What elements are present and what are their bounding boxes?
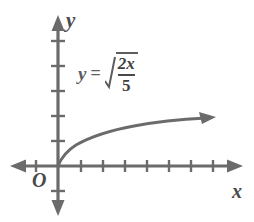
- x-axis-arrow-left: [10, 160, 26, 173]
- graph-figure: y = 2x 5 y x O: [0, 0, 254, 222]
- equals-sign: =: [90, 64, 100, 82]
- fraction-numerator: 2x: [118, 55, 135, 73]
- equation-lhs: y: [78, 64, 86, 83]
- fraction-denominator: 5: [122, 77, 131, 95]
- equation-label: y = 2x 5: [78, 52, 138, 95]
- y-axis-arrow-up: [52, 15, 65, 31]
- square-root-icon: [105, 55, 116, 95]
- radicand-fraction: 2x 5: [116, 52, 138, 95]
- radical-expression: 2x 5: [105, 52, 138, 95]
- y-axis-label: y: [66, 10, 75, 31]
- origin-label: O: [32, 170, 46, 190]
- x-axis-arrow-right: [227, 160, 243, 173]
- x-axis-label: x: [232, 181, 242, 201]
- y-axis-arrow-down: [52, 200, 65, 216]
- function-curve: [58, 118, 206, 166]
- curve-arrow-head: [199, 112, 216, 124]
